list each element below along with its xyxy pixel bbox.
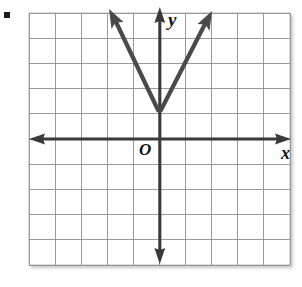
figure-container: y x O (0, 0, 302, 287)
origin-label: O (139, 141, 151, 158)
y-axis-label: y (168, 10, 176, 29)
x-axis-label: x (281, 144, 290, 162)
graph-vertex (158, 109, 162, 113)
